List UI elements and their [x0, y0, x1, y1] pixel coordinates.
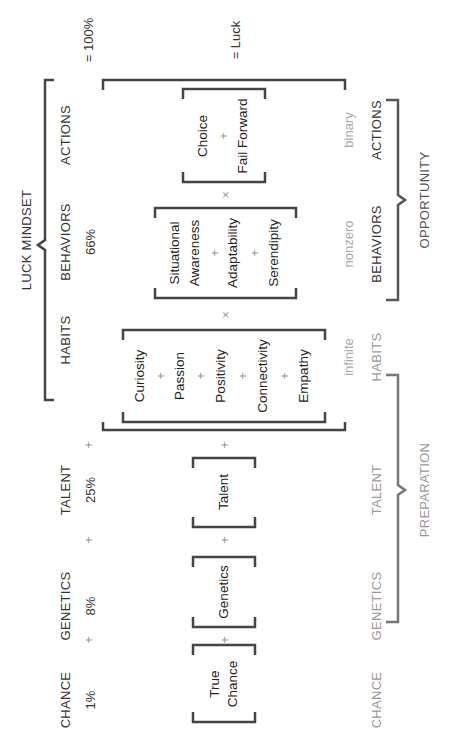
result-100-percent: = 100%: [82, 18, 95, 62]
pct-genetics: 8%: [84, 597, 97, 616]
header-talent: TALENT: [59, 465, 72, 516]
header-behaviors: BEHAVIORS: [59, 203, 72, 281]
habit-positivity: Positivity: [212, 349, 230, 402]
plus-sign: +: [278, 372, 291, 380]
actions-bracket-right: [183, 89, 265, 99]
bottom-label-habits: HABITS: [370, 333, 383, 382]
times-sign: ×: [219, 191, 232, 199]
times-sign: ×: [219, 311, 232, 319]
bottom-label-actions: ACTIONS: [370, 100, 383, 160]
header-habits: HABITS: [59, 316, 72, 365]
item-talent: Talent: [215, 474, 233, 510]
bottom-label-talent: TALENT: [370, 465, 383, 516]
plus-sign: +: [194, 372, 207, 380]
behaviors-bracket-left: [155, 288, 296, 298]
result-luck: = Luck: [229, 21, 242, 60]
opportunity-brace: [386, 100, 405, 300]
item-genetics: Genetics: [215, 565, 233, 618]
habits-bracket-right: [123, 330, 325, 340]
qualifier-infinite: infinite: [342, 338, 355, 376]
preparation-brace: [386, 375, 405, 622]
actions-bracket-left: [183, 172, 265, 182]
bottom-label-genetics: GENETICS: [370, 572, 383, 641]
behavior-situational: Situational: [166, 221, 184, 284]
opportunity-label: OPPORTUNITY: [418, 152, 431, 249]
plus-sign: +: [218, 536, 231, 544]
true-chance-bracket-right: [193, 645, 255, 655]
behavior-adaptability: Adaptability: [224, 218, 242, 288]
pct-talent: 25%: [84, 477, 97, 503]
plus-sign: +: [218, 441, 231, 449]
habit-curiosity: Curiosity: [131, 350, 149, 403]
habit-connectivity: Connectivity: [254, 339, 272, 413]
header-chance: CHANCE: [59, 672, 72, 729]
qualifier-nonzero: nonzero: [342, 221, 355, 268]
item-true-chance: True Chance: [206, 661, 242, 708]
behaviors-bracket-right: [155, 208, 296, 218]
plus-sign: +: [82, 536, 95, 544]
behavior-serendipity: Serendipity: [265, 219, 283, 287]
plus-sign: +: [217, 132, 230, 140]
action-choice: Choice: [194, 115, 212, 157]
bottom-label-behaviors: BEHAVIORS: [370, 205, 383, 283]
header-genetics: GENETICS: [59, 572, 72, 641]
talent-bracket-left: [193, 517, 255, 527]
plus-sign: +: [82, 636, 95, 644]
plus-sign: +: [248, 249, 261, 257]
talent-bracket-right: [193, 458, 255, 468]
habits-bracket-left: [123, 412, 325, 422]
habit-passion: Passion: [171, 352, 189, 400]
luck-mindset-brace: [38, 80, 54, 400]
plus-sign: +: [218, 636, 231, 644]
action-fail-forward: Fail Forward: [234, 98, 252, 173]
plus-sign: +: [208, 249, 221, 257]
qualifier-binary: binary: [342, 112, 355, 147]
luck-equation-diagram: LUCK MINDSET CHANCE GENETICS TALENT HABI…: [0, 0, 449, 752]
true-chance-bracket-left: [193, 712, 255, 722]
luck-mindset-title: LUCK MINDSET: [20, 190, 33, 290]
plus-sign: +: [82, 441, 95, 449]
pct-chance: 1%: [84, 691, 97, 710]
plus-sign: +: [236, 372, 249, 380]
preparation-label: PREPARATION: [418, 443, 431, 538]
pct-behaviors: 66%: [84, 229, 97, 255]
header-actions: ACTIONS: [59, 105, 72, 165]
plus-sign: +: [154, 372, 167, 380]
habit-empathy: Empathy: [295, 349, 313, 402]
bottom-label-chance: CHANCE: [370, 672, 383, 729]
behavior-awareness: Awareness: [186, 220, 204, 287]
